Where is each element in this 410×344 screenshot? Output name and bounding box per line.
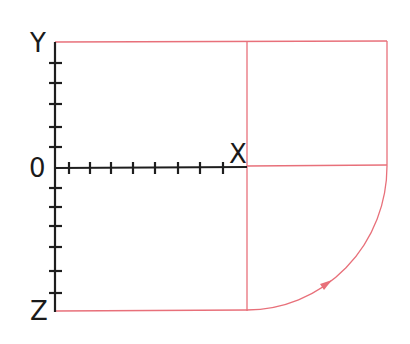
diagram-canvas: Y X 0 Z [0, 0, 410, 344]
x-axis [55, 167, 247, 168]
z-axis-label: Z [30, 296, 48, 326]
top-line [55, 41, 387, 42]
quarter-arc [247, 166, 387, 310]
axes [49, 42, 247, 312]
middle-line [247, 165, 387, 166]
y-axis-label: Y [29, 28, 46, 58]
projection-diagram: Y X 0 Z [0, 0, 410, 344]
construction-lines [55, 41, 387, 311]
bottom-line [55, 310, 247, 311]
x-axis-label: X [229, 139, 247, 169]
origin-label: 0 [29, 153, 46, 183]
